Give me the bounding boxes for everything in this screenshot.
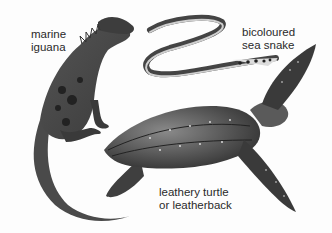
- sea-snake-label: bicoloured sea snake: [242, 26, 295, 52]
- turtle-label: leathery turtle or leatherback: [159, 186, 232, 212]
- iguana-label: marine iguana: [31, 28, 66, 54]
- illustration-canvas: marine iguana bicoloured sea snake leath…: [0, 0, 332, 233]
